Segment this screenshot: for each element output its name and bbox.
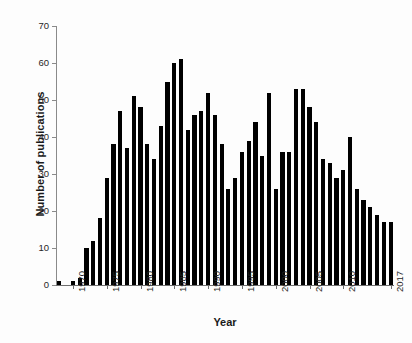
bar (321, 159, 325, 285)
bar (138, 107, 142, 285)
x-tick-label-1995: 1995 (246, 271, 256, 292)
x-tick-2000 (276, 285, 277, 289)
bar (287, 152, 291, 285)
y-axis-title: Number of publications (34, 44, 46, 264)
bar (274, 189, 278, 285)
x-tick-label-2010: 2010 (347, 271, 357, 292)
bar (233, 178, 237, 285)
bar (267, 93, 271, 285)
bar (213, 115, 217, 285)
bar (98, 218, 102, 285)
bar (307, 107, 311, 285)
bar (382, 222, 386, 285)
x-tick-1970 (73, 285, 74, 289)
bar (253, 122, 257, 285)
x-tick-label-1985: 1985 (178, 271, 188, 292)
bar (145, 144, 149, 285)
bar (334, 178, 338, 285)
y-tick-30: 30 (52, 174, 56, 175)
x-tick-label-1990: 1990 (212, 271, 222, 292)
bar (260, 156, 264, 286)
bar (186, 130, 190, 285)
bar (240, 152, 244, 285)
bar (57, 281, 61, 285)
bar (172, 63, 176, 285)
y-tick-50: 50 (52, 100, 56, 101)
bar (294, 89, 298, 285)
y-tick-10: 10 (52, 248, 56, 249)
x-axis-title: Year (56, 316, 394, 328)
y-tick-40: 40 (52, 137, 56, 138)
bar (199, 111, 203, 285)
bar (389, 222, 393, 285)
bar (91, 241, 95, 285)
y-tick-label-60: 60 (38, 58, 49, 68)
bar (328, 163, 332, 285)
bar (247, 141, 251, 285)
bar (220, 144, 224, 285)
x-tick-label-1980: 1980 (145, 271, 155, 292)
y-tick-label-10: 10 (38, 243, 49, 253)
x-tick-2005 (310, 285, 311, 289)
bar (118, 111, 122, 285)
bar (361, 200, 365, 285)
bar (341, 170, 345, 285)
x-tick-label-2017: 2017 (395, 271, 405, 292)
x-tick-1995 (242, 285, 243, 289)
x-tick-1985 (174, 285, 175, 289)
y-tick-label-30: 30 (38, 169, 49, 179)
bar (105, 178, 109, 285)
x-tick-1990 (208, 285, 209, 289)
plot-area: 010203040506070 197019751980198519901995… (56, 26, 394, 285)
x-tick-1980 (141, 285, 142, 289)
y-tick-60: 60 (52, 63, 56, 64)
x-tick-label-2000: 2000 (280, 271, 290, 292)
y-tick-20: 20 (52, 211, 56, 212)
bar (125, 148, 129, 285)
bar (165, 82, 169, 286)
y-tick-70: 70 (52, 26, 56, 27)
x-tick-1975 (107, 285, 108, 289)
bar (368, 207, 372, 285)
publications-bar-chart: Number of publications 010203040506070 1… (0, 0, 412, 343)
x-tick-2017 (391, 285, 392, 289)
bar (206, 93, 210, 285)
y-tick-label-20: 20 (38, 206, 49, 216)
bar (179, 59, 183, 285)
y-tick-label-0: 0 (44, 280, 49, 290)
x-tick-2010 (343, 285, 344, 289)
bar (159, 126, 163, 285)
bar (226, 189, 230, 285)
x-tick-label-2005: 2005 (314, 271, 324, 292)
bar (348, 137, 352, 285)
bar (132, 96, 136, 285)
bar (152, 159, 156, 285)
bar (375, 215, 379, 285)
y-tick-0: 0 (52, 285, 56, 286)
bars-group (56, 26, 394, 285)
bar (192, 115, 196, 285)
bar (280, 152, 284, 285)
x-tick-label-1975: 1975 (111, 271, 121, 292)
x-tick-label-1970: 1970 (77, 271, 87, 292)
y-tick-label-70: 70 (38, 21, 49, 31)
bar (314, 122, 318, 285)
y-tick-label-50: 50 (38, 95, 49, 105)
bar (301, 89, 305, 285)
y-tick-label-40: 40 (38, 132, 49, 142)
bar (111, 144, 115, 285)
